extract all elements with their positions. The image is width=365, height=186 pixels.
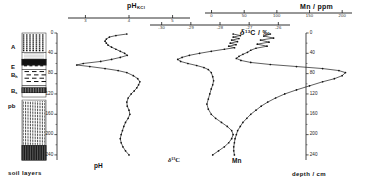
- ph-curve-point: [136, 87, 138, 89]
- ph-curve-point: [119, 57, 121, 59]
- d13c-curve-point: [218, 150, 220, 152]
- d13c-curve-point: [181, 57, 183, 59]
- d13c-axis-tick-label: -27: [246, 26, 253, 30]
- d13c-curve-point: [189, 55, 191, 57]
- d13c-curve-point: [234, 47, 236, 49]
- depth-axis-right-tick-label: 200: [310, 132, 318, 137]
- depth-axis-left-tick-label: 240: [46, 153, 54, 158]
- d13c-curve-point: [212, 84, 214, 86]
- d13c-curve-point: [199, 52, 201, 54]
- mn-axis-tick-label: 0: [210, 14, 213, 18]
- mn-curve-point: [247, 51, 249, 53]
- depth-axis-right-tick-label: 120: [310, 92, 318, 97]
- mn-curve-point: [250, 113, 252, 115]
- horizon-label-e: E: [11, 64, 15, 70]
- d13c-curve-point: [209, 93, 211, 95]
- depth-axis-left-tick-label: 200: [46, 132, 54, 137]
- d13c-curve-point: [180, 61, 182, 63]
- d13c-curve-point: [206, 103, 208, 105]
- mn-curve-point: [296, 66, 298, 68]
- d13c-curve-point: [226, 126, 228, 128]
- mn-axis-tick-label: 150: [306, 14, 314, 18]
- d13c-curve-point: [221, 122, 223, 124]
- depth-axis-right-tick-label: 80: [310, 71, 315, 76]
- d13c-curve-point: [232, 134, 234, 136]
- d13c-curve-point: [231, 39, 233, 41]
- mn-curve-point: [239, 126, 241, 128]
- d13c-curve-point: [224, 146, 226, 148]
- ph-curve-point: [89, 66, 91, 68]
- mn-curve-point: [246, 117, 248, 119]
- ph-curve-label: pH: [94, 163, 103, 170]
- depth-axis-right-tick-label: 160: [310, 112, 318, 117]
- ph-curve-point: [128, 154, 130, 156]
- mn-curve-point: [240, 60, 242, 62]
- ph-curve-point: [138, 84, 140, 86]
- mn-curve-point: [250, 49, 252, 51]
- mn-curve-point: [341, 75, 343, 77]
- mn-curve-point: [269, 64, 271, 66]
- d13c-curve-point: [238, 38, 240, 40]
- d13c-axis-tick-label: -30: [158, 26, 165, 30]
- ph-curve-point: [76, 64, 78, 66]
- mn-curve-point: [236, 134, 238, 136]
- d13c-curve-point: [224, 48, 226, 50]
- mn-curve-point: [345, 72, 347, 74]
- ph-curve-point: [105, 38, 107, 40]
- d13c-curve-point: [231, 130, 233, 132]
- depth-axis-right-tick-label: 240: [310, 153, 318, 158]
- mn-curve-point: [255, 109, 257, 111]
- mn-curve-point: [233, 146, 235, 148]
- mn-curve-point: [236, 58, 238, 60]
- d13c-curve-point: [213, 80, 215, 82]
- depth-axis-right-tick-label: 0: [310, 31, 313, 36]
- mn-curve-point: [234, 142, 236, 144]
- d13c-curve-point: [207, 69, 209, 71]
- d13c-curve-point: [237, 41, 239, 43]
- ph-curve-point: [125, 122, 127, 124]
- ph-curve-point: [109, 36, 111, 38]
- ph-curve-point: [104, 40, 106, 42]
- d13c-curve-point: [203, 67, 205, 69]
- soil-layers-caption: soil layers: [8, 170, 42, 176]
- d13c-curve-point: [196, 65, 198, 67]
- mn-curve-point: [334, 78, 336, 80]
- mn-curve-point: [322, 68, 324, 70]
- ph-curve-point: [119, 138, 121, 140]
- ph-curve-point: [126, 55, 128, 57]
- mn-curve-label: Mn: [232, 158, 241, 165]
- ph-axis-tick-label: 5: [171, 19, 174, 23]
- mn-curve-point: [266, 45, 268, 47]
- mn-curve-point: [233, 150, 235, 152]
- ph-curve-point: [115, 48, 117, 50]
- horizon-label-pb: pb: [8, 103, 15, 109]
- d13c-curve-point: [210, 72, 212, 74]
- d13c-curve-label: δ13C: [168, 157, 180, 164]
- mn-curve-point: [284, 93, 286, 95]
- mn-curve-point: [234, 154, 236, 156]
- mn-curve-point: [242, 53, 244, 55]
- d13c-curve-point: [210, 88, 212, 90]
- mn-curve-point: [269, 33, 271, 35]
- horizon-fill: [22, 59, 46, 65]
- mn-curve-point: [237, 130, 239, 132]
- d13c-curve-point: [228, 45, 230, 47]
- mn-curve-point: [256, 43, 258, 45]
- d13c-curve-point: [210, 113, 212, 115]
- d13c-axis-tick-label: -29: [188, 26, 195, 30]
- ph-curve-point: [125, 150, 127, 152]
- depth-axis-left-tick-label: 160: [46, 112, 54, 117]
- mn-curve-point: [296, 89, 298, 91]
- mn-curve-point: [238, 56, 240, 58]
- mn-curve-point: [260, 39, 262, 41]
- ph-curve-point: [120, 142, 122, 144]
- d13c-curve-point: [240, 35, 242, 37]
- ph-curve-point: [107, 44, 109, 46]
- ph-curve-point: [137, 78, 139, 80]
- mn-curve-point: [322, 81, 324, 83]
- ph-curve-point: [133, 90, 135, 92]
- d13c-curve-point: [212, 76, 214, 78]
- ph-curve-point: [111, 46, 113, 48]
- d13c-curve-point: [177, 59, 179, 61]
- ph-curve-point: [104, 68, 106, 70]
